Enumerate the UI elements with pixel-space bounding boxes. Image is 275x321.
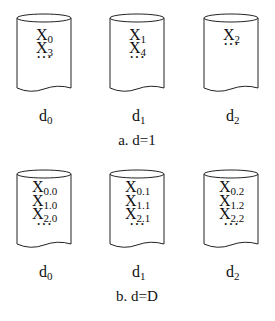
disk-label: d0 xyxy=(39,263,53,282)
disk-top-ellipse xyxy=(110,170,164,178)
disk-label: d2 xyxy=(226,263,240,282)
disk-label: d1 xyxy=(132,107,146,126)
panel-caption: b. d=D xyxy=(116,288,158,304)
disk-layout-diagram: X0X3···d0X1X4···d1X2···d2a. d=1X0.0X1.0X… xyxy=(0,0,275,321)
panel-a: X0X3···d0X1X4···d1X2···d2a. d=1 xyxy=(17,14,258,148)
disk-1: X1X4···d1 xyxy=(110,14,164,126)
disk-item: ··· xyxy=(36,216,52,233)
disk-0: X0.0X1.0X2.0···d0 xyxy=(17,170,71,282)
disk-top-ellipse xyxy=(17,14,71,22)
disk-top-ellipse xyxy=(110,14,164,22)
disk-label: d2 xyxy=(226,107,240,126)
disk-top-ellipse xyxy=(17,170,71,178)
disk-2: X2···d2 xyxy=(204,14,258,126)
disk-item: ··· xyxy=(223,216,239,233)
panel-caption: a. d=1 xyxy=(118,132,156,148)
disk-top-ellipse xyxy=(204,170,258,178)
disk-2: X0.2X1.2X2.2···d2 xyxy=(204,170,258,282)
panel-b: X0.0X1.0X2.0···d0X0.1X1.1X2.1···d1X0.2X1… xyxy=(17,170,258,304)
disk-0: X0X3···d0 xyxy=(17,14,71,126)
disk-item: ··· xyxy=(36,49,52,66)
disk-item: ··· xyxy=(129,216,145,233)
disk-item: ··· xyxy=(223,36,239,53)
disk-top-ellipse xyxy=(204,14,258,22)
disk-label: d1 xyxy=(132,263,146,282)
disk-label: d0 xyxy=(39,107,53,126)
disk-1: X0.1X1.1X2.1···d1 xyxy=(110,170,164,282)
disk-item: ··· xyxy=(129,49,145,66)
